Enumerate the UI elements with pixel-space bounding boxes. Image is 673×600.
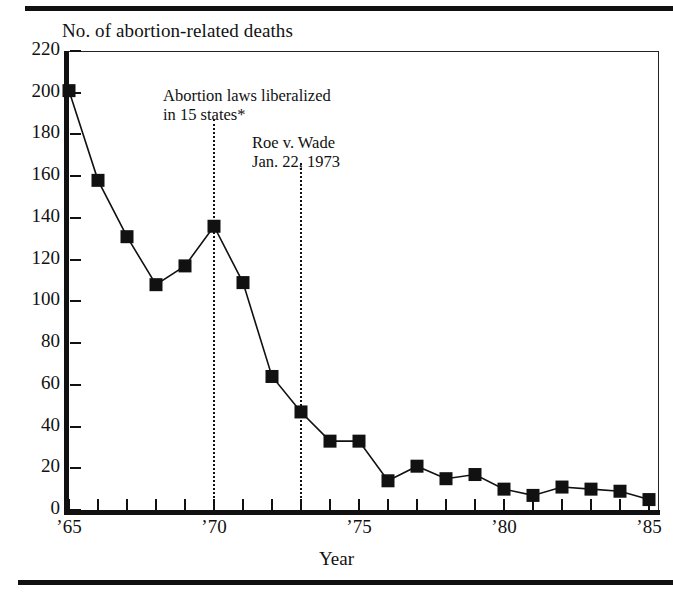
y-axis-tick-label: 220 [32,38,61,60]
data-point-marker [150,278,163,291]
data-point-marker [237,276,250,289]
annotation-liberalized-line1: Abortion laws liberalized [163,86,331,105]
data-point-marker [614,485,627,498]
annotation-roe-line1: Roe v. Wade [252,133,340,152]
data-point-marker [208,220,221,233]
data-point-marker [411,460,424,473]
annotation-abortion-laws-liberalized: Abortion laws liberalized in 15 states* [163,86,331,125]
y-axis-tick-label: 160 [32,163,61,185]
plot-area [67,51,659,512]
bottom-rule [18,580,673,585]
data-point-marker [469,468,482,481]
data-point-marker [382,474,395,487]
y-axis-tick-label: 80 [41,330,60,352]
chart-title: No. of abortion-related deaths [62,20,293,42]
data-point-marker [121,230,134,243]
x-axis-labels: ’65’70’75’80’85 [0,516,673,546]
y-axis-tick-label: 140 [32,205,61,227]
data-point-marker [353,435,366,448]
x-axis-tick-label: ’75 [346,516,371,538]
data-point-marker [643,493,656,506]
data-point-marker [440,472,453,485]
y-axis-tick-label: 20 [41,455,60,477]
annotation-roe-v-wade: Roe v. Wade Jan. 22, 1973 [252,133,340,172]
data-point-marker [556,481,569,494]
x-axis-tick-label: ’70 [201,516,226,538]
y-axis-tick-label: 180 [32,121,61,143]
y-axis-labels: 020406080100120140160180200220 [0,51,60,512]
data-point-marker [295,405,308,418]
data-point-marker [179,259,192,272]
y-axis-tick-label: 200 [32,80,61,102]
annotation-liberalized-line2: in 15 states* [163,105,331,124]
y-axis-tick-label: 120 [32,247,61,269]
y-axis-tick-label: 60 [41,372,60,394]
y-axis-tick-label: 100 [32,288,61,310]
data-point-marker [266,370,279,383]
x-axis-tick-label: ’80 [491,516,516,538]
y-axis-tick-label: 40 [41,414,60,436]
data-point-marker [527,489,540,502]
data-point-marker [63,84,76,97]
top-rule [25,6,673,11]
x-axis-caption: Year [0,548,673,570]
data-point-marker [324,435,337,448]
x-axis-tick-label: ’85 [636,516,661,538]
annotation-roe-line2: Jan. 22, 1973 [252,152,340,171]
x-axis-tick-label: ’65 [56,516,81,538]
data-point-marker [585,483,598,496]
data-series-line [67,51,659,512]
data-point-marker [92,174,105,187]
data-point-marker [498,483,511,496]
